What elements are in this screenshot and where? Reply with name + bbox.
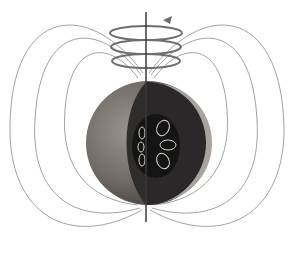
planet-core xyxy=(132,114,180,178)
diagram-canvas xyxy=(0,0,290,268)
rotation-arrow-icon xyxy=(163,16,172,24)
magnetic-field-diagram xyxy=(0,0,290,268)
planet xyxy=(86,81,212,205)
